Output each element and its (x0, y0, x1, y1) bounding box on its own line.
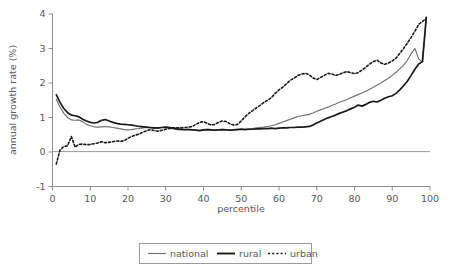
chart-legend: national rural urban (140, 244, 318, 264)
chart-figure: -101234 0102030405060708090100 annual gr… (0, 0, 451, 268)
series-line-national (56, 19, 426, 130)
x-tick-label-50: 50 (235, 193, 247, 204)
x-axis-ticks (53, 187, 431, 191)
y-tick-label-2: 2 (39, 77, 45, 88)
y-tick-label-4: 4 (39, 8, 45, 19)
legend-label-urban: urban (290, 248, 318, 259)
x-tick-label-100: 100 (421, 193, 439, 204)
x-tick-label-90: 90 (386, 193, 398, 204)
y-tick-label--1: -1 (36, 181, 45, 192)
y-axis-ticks (49, 14, 53, 187)
y-axis-title: annual growth rate (%) (7, 45, 18, 155)
x-tick-label-20: 20 (122, 193, 134, 204)
x-tick-label-40: 40 (197, 193, 209, 204)
series-line-urban (56, 18, 426, 164)
x-tick-label-80: 80 (348, 193, 360, 204)
y-axis-tick-labels: -101234 (36, 8, 45, 192)
y-tick-label-0: 0 (39, 146, 45, 157)
y-tick-label-3: 3 (39, 43, 45, 54)
x-axis-title: percentile (217, 203, 265, 214)
x-tick-label-70: 70 (311, 193, 323, 204)
line-chart: -101234 0102030405060708090100 annual gr… (0, 0, 451, 268)
legend-label-national: national (170, 248, 209, 259)
x-tick-label-60: 60 (273, 193, 285, 204)
x-axis-tick-labels: 0102030405060708090100 (49, 193, 439, 204)
series-line-rural (56, 17, 426, 130)
y-tick-label-1: 1 (39, 112, 45, 123)
x-tick-label-30: 30 (160, 193, 172, 204)
legend-label-rural: rural (239, 248, 261, 259)
x-tick-label-10: 10 (84, 193, 96, 204)
x-tick-label-0: 0 (49, 193, 55, 204)
